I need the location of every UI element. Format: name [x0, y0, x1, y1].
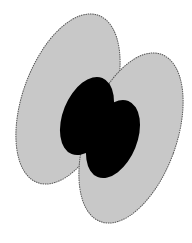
orbital-diagram [0, 0, 192, 243]
